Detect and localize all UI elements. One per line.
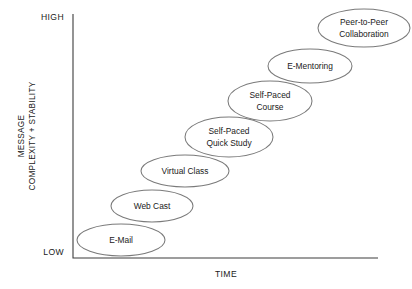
- data-point-group: E-Mail Web Cast Virtual Class Self-Paced…: [77, 9, 410, 256]
- data-point-e-mail[interactable]: E-Mail: [77, 224, 165, 256]
- ellipse-shape: [185, 117, 273, 157]
- data-point-label-line1: Peer-to-Peer: [340, 17, 388, 27]
- ellipse-shape: [228, 81, 312, 121]
- y-axis-high-label: HIGH: [41, 12, 64, 22]
- ellipse-shape: [318, 9, 410, 47]
- data-point-peer-to-peer-collaboration[interactable]: Peer-to-Peer Collaboration: [318, 9, 410, 47]
- x-axis-title: TIME: [215, 269, 237, 279]
- data-point-e-mentoring[interactable]: E-Mentoring: [268, 49, 352, 83]
- data-point-label-line1: Self-Paced: [209, 126, 250, 136]
- data-point-label-line2: Collaboration: [339, 29, 389, 39]
- data-point-label-line2: Course: [257, 102, 284, 112]
- data-point-label: E-Mail: [109, 235, 133, 245]
- y-axis-title-line1: MESSAGE: [17, 114, 26, 157]
- data-point-label: Virtual Class: [162, 166, 209, 176]
- data-point-self-paced-quick-study[interactable]: Self-Paced Quick Study: [185, 117, 273, 157]
- progression-chart: HIGH LOW MESSAGE COMPLEXITY + STABILITY …: [0, 0, 412, 289]
- data-point-web-cast[interactable]: Web Cast: [111, 190, 193, 222]
- data-point-virtual-class[interactable]: Virtual Class: [141, 155, 229, 187]
- y-axis-low-label: LOW: [43, 247, 64, 257]
- data-point-label: Web Cast: [134, 201, 171, 211]
- y-axis-title-line2: COMPLEXITY + STABILITY: [28, 81, 37, 190]
- chart-canvas: HIGH LOW MESSAGE COMPLEXITY + STABILITY …: [0, 0, 412, 289]
- data-point-self-paced-course[interactable]: Self-Paced Course: [228, 81, 312, 121]
- data-point-label-line1: Self-Paced: [250, 90, 291, 100]
- y-axis-title: MESSAGE COMPLEXITY + STABILITY: [17, 81, 37, 190]
- data-point-label-line2: Quick Study: [206, 138, 252, 148]
- data-point-label: E-Mentoring: [287, 61, 333, 71]
